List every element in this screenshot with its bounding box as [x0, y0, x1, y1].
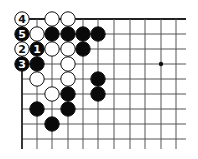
black-stone	[76, 42, 90, 56]
white-stone: 2	[15, 42, 29, 56]
black-stone	[61, 87, 75, 101]
black-stone	[30, 102, 44, 116]
black-stone: 1	[30, 42, 44, 56]
black-stone: 5	[15, 27, 29, 41]
black-stone	[61, 102, 75, 116]
black-stone	[91, 87, 105, 101]
black-stone	[61, 27, 75, 41]
white-stone	[61, 72, 75, 86]
black-stone	[91, 27, 105, 41]
white-stone	[30, 27, 44, 41]
move-number: 2	[18, 43, 26, 56]
move-number: 1	[33, 43, 41, 56]
black-stone: 3	[15, 57, 29, 71]
black-stone	[45, 117, 59, 131]
white-stone	[45, 42, 59, 56]
white-stone	[45, 87, 59, 101]
white-stone	[61, 12, 75, 26]
move-number: 3	[18, 58, 26, 71]
move-number: 5	[18, 28, 26, 41]
black-stone	[30, 57, 44, 71]
move-number: 4	[18, 13, 26, 26]
white-stone	[61, 57, 75, 71]
star-point	[159, 62, 163, 66]
white-stone	[61, 42, 75, 56]
white-stone	[45, 12, 59, 26]
go-board: 45213	[0, 0, 198, 159]
white-stone	[30, 72, 44, 86]
stones-layer: 45213	[15, 12, 105, 131]
black-stone	[45, 27, 59, 41]
black-stone	[76, 27, 90, 41]
black-stone	[91, 72, 105, 86]
star-points	[159, 62, 163, 66]
white-stone: 4	[15, 12, 29, 26]
